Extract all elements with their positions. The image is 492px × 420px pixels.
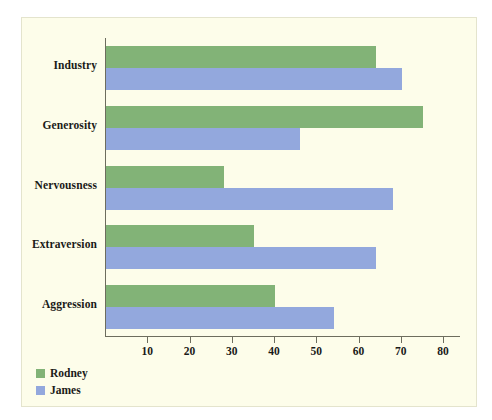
category-label: Aggression xyxy=(42,298,97,310)
x-tick xyxy=(274,337,275,343)
category-label: Industry xyxy=(53,59,97,71)
x-tick-label: 70 xyxy=(386,345,416,357)
bar-rodney-nervousness xyxy=(106,166,224,188)
bar-james-nervousness xyxy=(106,188,393,210)
category-label: Extraversion xyxy=(32,238,97,250)
x-tick xyxy=(190,337,191,343)
category-label: Nervousness xyxy=(35,179,97,191)
plot-area: IndustryGenerosityNervousnessExtraversio… xyxy=(105,38,460,337)
x-tick-label: 80 xyxy=(428,345,458,357)
x-tick-label: 60 xyxy=(344,345,374,357)
x-tick xyxy=(232,337,233,343)
legend-label: James xyxy=(50,385,81,397)
x-axis-line xyxy=(105,336,460,337)
bar-group-generosity: Generosity xyxy=(106,106,460,150)
bar-rodney-generosity xyxy=(106,106,423,128)
bar-james-industry xyxy=(106,68,402,90)
bar-rodney-industry xyxy=(106,46,376,68)
bar-james-aggression xyxy=(106,307,334,329)
x-tick xyxy=(316,337,317,343)
chart-screenshot: IndustryGenerosityNervousnessExtraversio… xyxy=(0,0,492,420)
bar-group-industry: Industry xyxy=(106,46,460,90)
bar-rodney-aggression xyxy=(106,285,275,307)
legend-swatch-icon xyxy=(36,369,45,378)
x-tick xyxy=(147,337,148,343)
bar-group-extraversion: Extraversion xyxy=(106,225,460,269)
category-label: Generosity xyxy=(43,119,97,131)
x-tick xyxy=(443,337,444,343)
x-tick xyxy=(401,337,402,343)
x-tick-label: 20 xyxy=(175,345,205,357)
legend-item-rodney[interactable]: Rodney xyxy=(36,366,88,381)
x-tick xyxy=(359,337,360,343)
bar-james-generosity xyxy=(106,128,300,150)
x-tick-label: 50 xyxy=(301,345,331,357)
x-tick-label: 10 xyxy=(132,345,162,357)
chart-panel: IndustryGenerosityNervousnessExtraversio… xyxy=(22,18,476,406)
bar-rodney-extraversion xyxy=(106,225,254,247)
x-tick-label: 40 xyxy=(259,345,289,357)
bar-james-extraversion xyxy=(106,247,376,269)
legend-swatch-icon xyxy=(36,386,45,395)
bar-group-aggression: Aggression xyxy=(106,285,460,329)
chart-legend: RodneyJames xyxy=(36,366,88,400)
legend-item-james[interactable]: James xyxy=(36,383,88,398)
legend-label: Rodney xyxy=(50,368,88,380)
bar-group-nervousness: Nervousness xyxy=(106,166,460,210)
x-tick-label: 30 xyxy=(217,345,247,357)
